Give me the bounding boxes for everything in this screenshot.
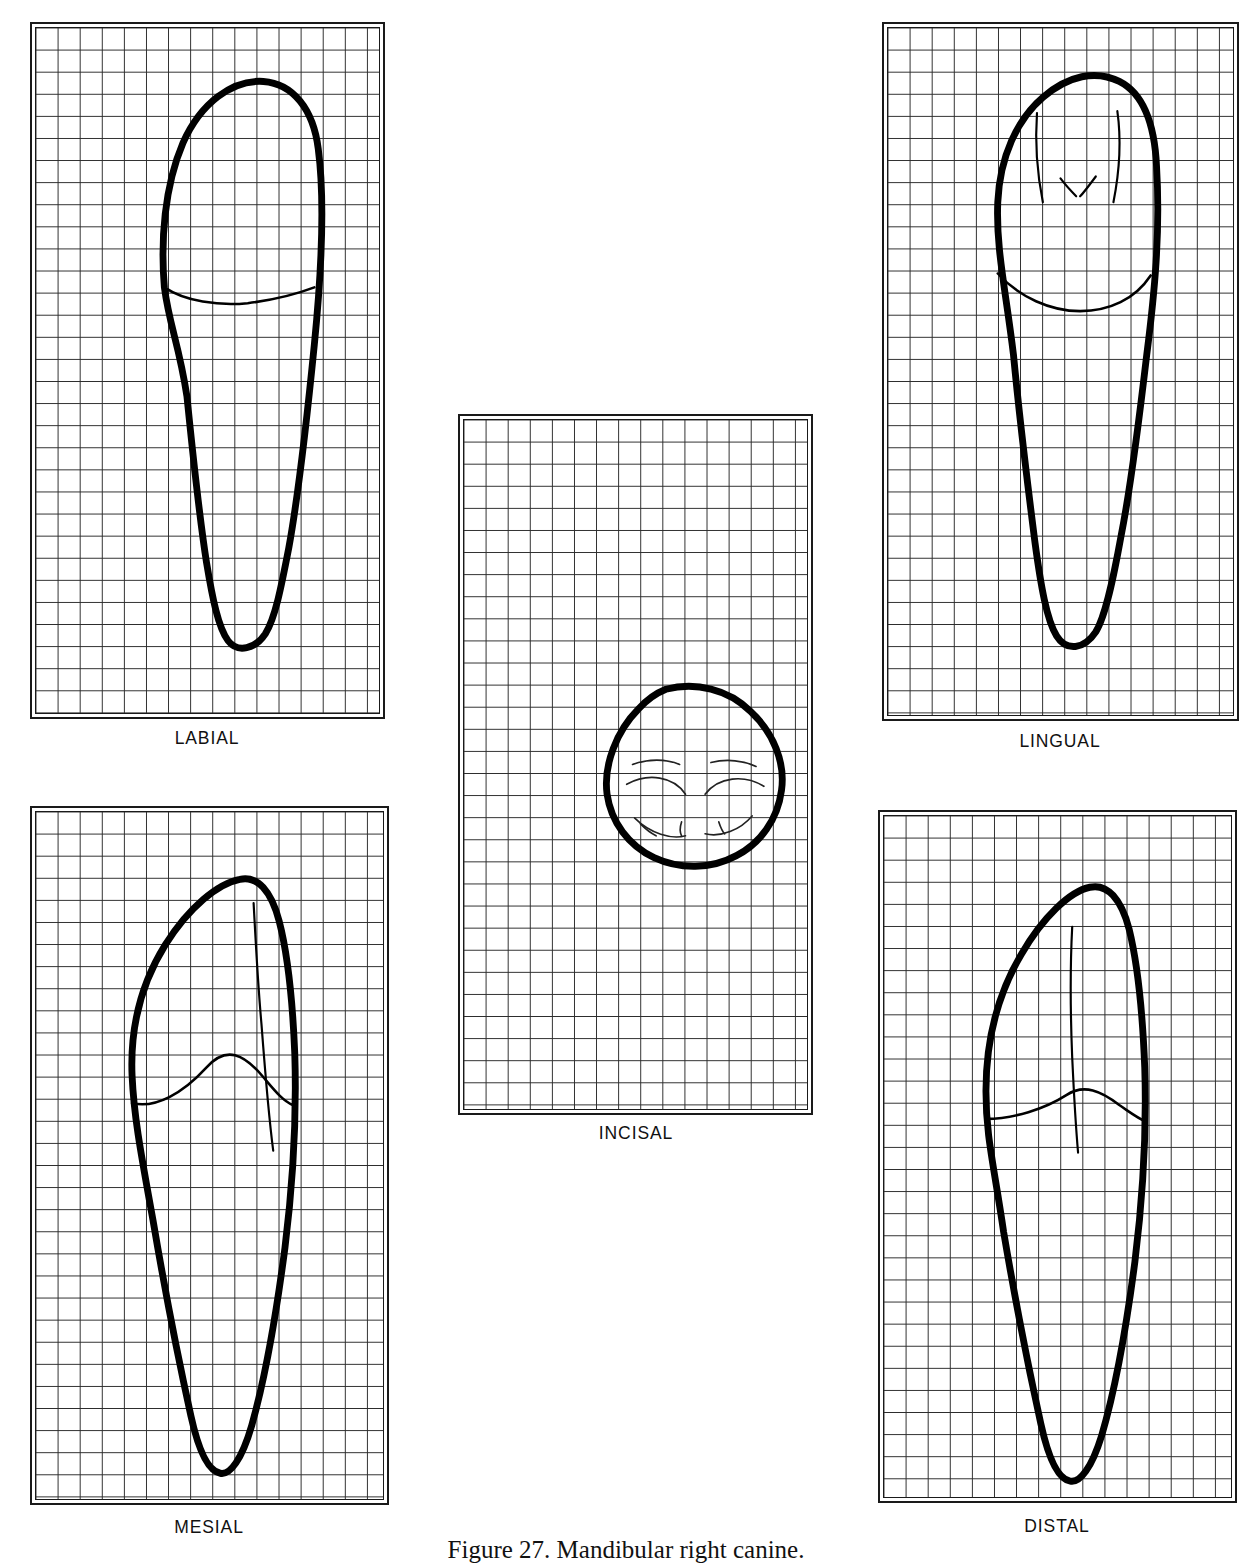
mesial-crown-root-outline [132, 879, 295, 1474]
distal-incisal-ridge-line [1071, 927, 1078, 1153]
lingual-mesial-marginal-ridge [1036, 113, 1043, 202]
labial-crown-root-outline [163, 81, 322, 648]
lingual-cervical-line [998, 273, 1151, 311]
incisal-distal-marginal-ridge [711, 760, 756, 766]
mesial-cervical-line [132, 1055, 293, 1105]
view-label-mesial: MESIAL [109, 1517, 309, 1538]
view-label-incisal: INCISAL [536, 1123, 736, 1144]
view-label-lingual: LINGUAL [960, 731, 1160, 752]
tooth-drawing-incisal [464, 420, 807, 1109]
view-label-labial: LABIAL [107, 728, 307, 749]
lingual-crown-root-outline [998, 75, 1158, 646]
tooth-drawing-distal [884, 816, 1231, 1497]
incisal-mesial-marginal-ridge [633, 760, 680, 764]
incisal-tick-distal [719, 822, 725, 834]
labial-cervical-line [164, 287, 314, 304]
panel-labial [30, 22, 385, 719]
lingual-distal-marginal-ridge [1113, 111, 1119, 202]
mesial-incisal-ridge-line [254, 903, 274, 1150]
incisal-crown-outline [606, 686, 782, 866]
incisal-tick-center [680, 822, 681, 836]
distal-cervical-line [986, 1089, 1145, 1121]
figure-caption: Figure 27. Mandibular right canine. [0, 1536, 1252, 1564]
tooth-drawing-mesial [36, 812, 383, 1499]
incisal-cingulum-line-mesial [635, 818, 686, 837]
tooth-drawing-lingual [888, 28, 1233, 715]
grid-labial [35, 27, 380, 714]
incisal-mesial-fossa-line [627, 778, 686, 795]
incisal-distal-fossa-line [705, 779, 764, 794]
panel-incisal [458, 414, 813, 1115]
grid-lingual [887, 27, 1234, 716]
tooth-drawing-labial [36, 28, 379, 713]
lingual-cingulum-ridge-mesial [1061, 178, 1077, 196]
view-label-distal: DISTAL [957, 1516, 1157, 1537]
grid-incisal [463, 419, 808, 1110]
distal-crown-root-outline [986, 887, 1145, 1482]
lingual-cingulum-ridge-distal [1080, 176, 1096, 196]
grid-mesial [35, 811, 384, 1500]
incisal-cingulum-line-distal [705, 816, 752, 835]
grid-distal [883, 815, 1232, 1498]
panel-distal [878, 810, 1237, 1503]
panel-lingual [882, 22, 1239, 721]
incisal-tick-mesial [640, 824, 656, 836]
panel-mesial [30, 806, 389, 1505]
